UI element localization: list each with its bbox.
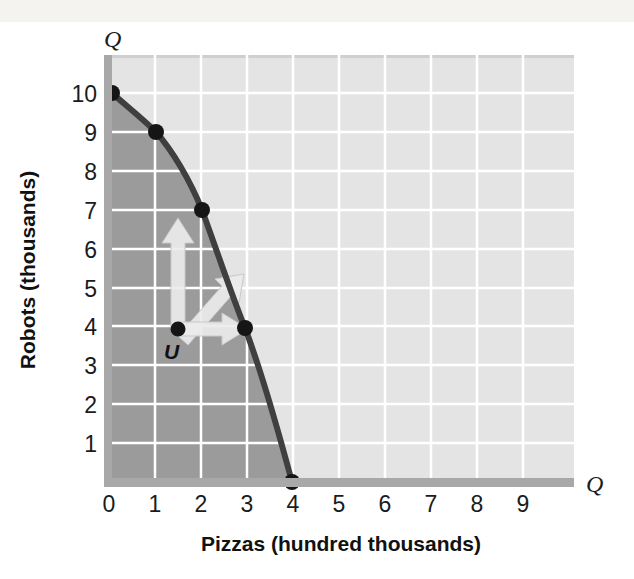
x-tick-label-7: 7: [425, 491, 438, 517]
y-axis-bar: [104, 55, 112, 482]
y-tick-label-3: 3: [84, 353, 97, 379]
scan-top-band: [0, 0, 634, 22]
x-tick-label-6: 6: [379, 491, 392, 517]
y-axis-title: Robots (thousands): [16, 171, 39, 369]
x-tick-label-4: 4: [287, 491, 300, 517]
y-tick-label-2: 2: [84, 392, 97, 418]
y-tick-label-9: 9: [84, 120, 97, 146]
y-tick-label-6: 6: [84, 237, 97, 263]
x-tick-label-2: 2: [195, 491, 208, 517]
y-tick-label-10: 10: [71, 81, 97, 107]
y-axis-symbol: Q: [104, 26, 121, 52]
y-tick-label-1: 1: [84, 431, 97, 457]
x-tick-label-8: 8: [471, 491, 484, 517]
y-tick-label-8: 8: [84, 159, 97, 185]
y-tick-label-5: 5: [84, 276, 97, 302]
x-axis-title: Pizzas (hundred thousands): [201, 532, 481, 555]
chart-figure: U Q Q 0 1 2 3 4 5 6 7 8 9 1 2 3 4 5 6: [0, 0, 634, 579]
data-point-3-4: [237, 320, 253, 336]
plot-area: U: [104, 55, 574, 490]
x-tick-label-1: 1: [149, 491, 162, 517]
x-tick-label-5: 5: [333, 491, 346, 517]
y-tick-label-4: 4: [84, 314, 97, 340]
x-tick-label-9: 9: [517, 491, 530, 517]
data-point-2-7: [194, 202, 210, 218]
x-axis-symbol: Q: [586, 471, 603, 497]
x-tick-label-3: 3: [241, 491, 254, 517]
point-u-label: U: [164, 340, 180, 363]
point-u-marker: [171, 322, 186, 337]
plot-top-edge: [108, 55, 574, 58]
x-tick-label-0: 0: [103, 491, 116, 517]
ppf-chart-svg: U Q Q 0 1 2 3 4 5 6 7 8 9 1 2 3 4 5 6: [0, 0, 634, 579]
data-point-1-9: [148, 124, 164, 140]
x-axis-bar: [104, 478, 574, 487]
y-tick-label-7: 7: [84, 198, 97, 224]
